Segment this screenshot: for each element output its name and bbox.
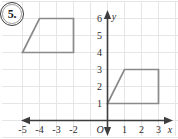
exercise-figure: -5 -4 -3 -2 1 2 3 1 2 3 4 5 6 O x y 5. <box>0 0 178 139</box>
y-axis-tick-labels: 1 2 3 4 5 6 <box>97 13 102 109</box>
y-tick-label: 1 <box>97 98 102 109</box>
exercise-number-badge: 5. <box>0 2 24 26</box>
y-tick-label: 5 <box>97 30 102 41</box>
x-tick-label: -2 <box>69 124 77 135</box>
x-tick-label: 3 <box>156 124 161 135</box>
x-tick-label: 1 <box>122 124 127 135</box>
y-tick-label: 4 <box>97 47 102 58</box>
coordinate-graph: -5 -4 -3 -2 1 2 3 1 2 3 4 5 6 O x y <box>0 0 178 139</box>
y-axis-label: y <box>111 11 117 22</box>
x-tick-label: 2 <box>139 124 144 135</box>
y-tick-label: 2 <box>97 81 102 92</box>
x-tick-label: -5 <box>18 124 26 135</box>
x-tick-label: -3 <box>52 124 60 135</box>
x-tick-label: -4 <box>35 124 43 135</box>
x-axis-tick-labels: -5 -4 -3 -2 1 2 3 <box>18 124 161 135</box>
y-tick-label: 3 <box>97 64 102 75</box>
exercise-number-label: 5. <box>1 3 23 25</box>
y-tick-label: 6 <box>97 13 102 24</box>
y-axis-arrow-up <box>104 10 111 19</box>
y-axis <box>104 10 111 136</box>
y-axis-arrow-down <box>104 127 111 136</box>
x-axis-label: x <box>167 124 173 135</box>
origin-label: O <box>96 124 103 135</box>
